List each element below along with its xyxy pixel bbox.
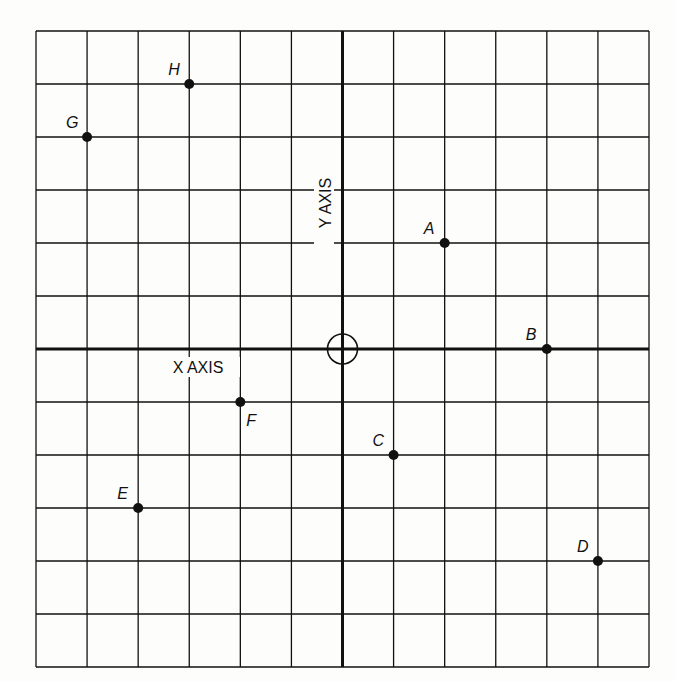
coordinate-plane: X AXIS Y AXIS ABCDEFGH	[0, 0, 676, 681]
point-label: C	[373, 432, 385, 449]
point-label: E	[117, 485, 128, 502]
x-axis-label: X AXIS	[173, 359, 224, 376]
plot-background	[0, 0, 676, 681]
point-marker	[593, 556, 603, 566]
point-label: D	[577, 538, 589, 555]
point-label: H	[168, 61, 180, 78]
point-label: G	[66, 114, 78, 131]
point-marker	[542, 344, 552, 354]
point-marker	[235, 397, 245, 407]
point-label: B	[526, 326, 537, 343]
point-marker	[184, 79, 194, 89]
point-marker	[133, 503, 143, 513]
point-marker	[82, 132, 92, 142]
point-marker	[440, 238, 450, 248]
point-marker	[389, 450, 399, 460]
point-label: F	[246, 412, 257, 429]
y-axis-label: Y AXIS	[317, 178, 334, 228]
point-label: A	[423, 220, 435, 237]
